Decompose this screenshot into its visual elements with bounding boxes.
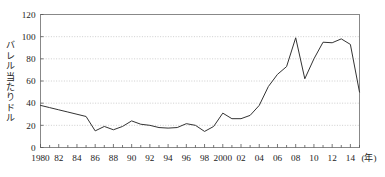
y-axis-title-char-0: バ bbox=[6, 40, 15, 50]
x-tick-label-2002: 02 bbox=[236, 153, 246, 163]
y-axis-title-char-5: り bbox=[6, 92, 15, 102]
data-series-group bbox=[41, 38, 360, 132]
x-tick-label-2006: 06 bbox=[273, 153, 283, 163]
x-tick-label-2014: 14 bbox=[346, 153, 356, 163]
y-axis-title-char-4: た bbox=[6, 82, 15, 92]
x-tick-label-2010: 10 bbox=[309, 153, 319, 163]
x-axis-tick-labels: 1980828486889092949698200002040608101214 bbox=[31, 153, 355, 163]
x-tick-label-2004: 04 bbox=[255, 153, 265, 163]
x-tick-label-1996: 96 bbox=[182, 153, 192, 163]
y-axis-title-char-7: ル bbox=[6, 113, 15, 123]
x-tick-label-1998: 98 bbox=[200, 153, 210, 163]
y-tick-label-120: 120 bbox=[22, 10, 36, 20]
x-tick-label-2008: 08 bbox=[291, 153, 301, 163]
y-axis-title-char-2: ル bbox=[6, 61, 15, 71]
y-tick-label-100: 100 bbox=[22, 32, 36, 42]
x-tick-label-1986: 86 bbox=[91, 153, 101, 163]
x-tick-label-2000: 2000 bbox=[214, 153, 233, 163]
x-tick-label-1992: 92 bbox=[145, 153, 155, 163]
y-tick-label-0: 0 bbox=[31, 143, 36, 153]
x-tick-label-1988: 88 bbox=[109, 153, 119, 163]
x-axis-unit-label: (年) bbox=[362, 152, 377, 163]
y-tick-label-20: 20 bbox=[26, 121, 36, 131]
x-tick-label-1984: 84 bbox=[72, 153, 82, 163]
x-tick-label-1990: 90 bbox=[127, 153, 137, 163]
x-tick-label-1994: 94 bbox=[164, 153, 174, 163]
y-axis-title-char-6: ド bbox=[6, 103, 15, 113]
y-axis-tick-labels: 020406080100120 bbox=[22, 10, 36, 153]
x-tick-label-2012: 12 bbox=[328, 153, 338, 163]
gridlines-group bbox=[41, 37, 360, 126]
x-axis-unit-text: (年) bbox=[362, 152, 377, 163]
y-tick-label-60: 60 bbox=[26, 76, 36, 86]
x-tick-label-1982: 82 bbox=[54, 153, 64, 163]
y-axis-title-char-3: 当 bbox=[6, 71, 15, 82]
y-axis-title: バレル当たりドル bbox=[6, 40, 15, 123]
chart-canvas: 020406080100120 198082848688909294969820… bbox=[0, 0, 385, 177]
y-axis-title-char-1: レ bbox=[6, 51, 15, 61]
x-axis-ticks bbox=[41, 144, 360, 148]
crude-oil-price-line-chart: 020406080100120 198082848688909294969820… bbox=[0, 0, 385, 177]
y-tick-label-40: 40 bbox=[26, 98, 36, 108]
x-tick-label-1980: 1980 bbox=[31, 153, 50, 163]
series-line-oil-price bbox=[41, 38, 360, 132]
y-tick-label-80: 80 bbox=[26, 54, 36, 64]
